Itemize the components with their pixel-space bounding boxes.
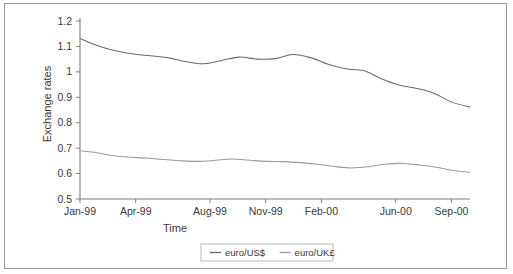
y-tick-label: 1.1 (57, 40, 72, 52)
y-tick-label: 0.8 (57, 116, 72, 128)
y-tick-label: 0.9 (57, 91, 72, 103)
x-tick-label: Apr-99 (120, 205, 152, 217)
legend-label-2: euro/UK£ (295, 247, 336, 258)
y-tick-label: 0.7 (57, 142, 72, 154)
x-tick-label: Jan-99 (64, 205, 96, 217)
chart-figure-frame: 1.21.110.90.80.70.60.5 Jan-99Apr-99Aug-9… (4, 3, 507, 269)
exchange-rates-line-chart: 1.21.110.90.80.70.60.5 Jan-99Apr-99Aug-9… (5, 4, 508, 270)
x-tick-label: Feb-00 (305, 205, 338, 217)
series-lines (80, 39, 470, 173)
x-tick-label: Nov-99 (249, 205, 283, 217)
x-tick-label: Jun-00 (380, 205, 412, 217)
chart-legend: euro/US$euro/UK£ (201, 244, 335, 261)
y-tick-label: 1 (66, 65, 72, 77)
series-line-1 (80, 39, 470, 107)
legend-label-1: euro/US$ (225, 247, 266, 258)
y-axis: 1.21.110.90.80.70.60.5 (57, 15, 80, 205)
plot-area: 1.21.110.90.80.70.60.5 Jan-99Apr-99Aug-9… (5, 4, 508, 270)
x-tick-label: Sep-00 (434, 205, 468, 217)
y-tick-label: 0.6 (57, 167, 72, 179)
y-axis-title: Exchange rates (41, 65, 53, 142)
y-tick-label: 1.2 (57, 15, 72, 27)
x-axis-title: Time (163, 222, 187, 234)
y-tick-label: 0.5 (57, 193, 72, 205)
x-tick-label: Aug-99 (193, 205, 227, 217)
x-axis: Jan-99Apr-99Aug-99Nov-99Feb-00Jun-00Sep-… (64, 199, 470, 217)
series-line-2 (80, 151, 470, 173)
